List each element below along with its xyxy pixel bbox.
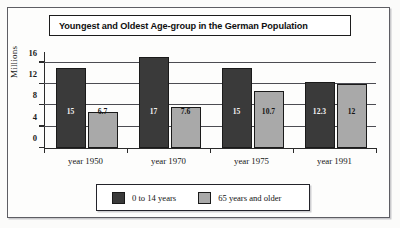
y-tick-label: 16	[28, 48, 37, 58]
bar-old: 6.7	[88, 112, 118, 148]
x-tick-mark	[127, 148, 128, 153]
bar-value-label: 15	[67, 107, 75, 116]
y-tick-label: 12	[28, 69, 37, 79]
bar-old: 12	[337, 84, 367, 148]
bar-value-label: 12.3	[313, 107, 326, 116]
chart-legend: 0 to 14 years65 years and older	[96, 184, 310, 211]
x-tick-mark	[44, 148, 45, 153]
bar-young: 15	[222, 68, 252, 148]
bar-old: 7.6	[171, 107, 201, 148]
legend-swatch	[112, 192, 125, 204]
bar-value-label: 7.6	[181, 107, 191, 116]
plot-inner: 0481216 156.7177.61510.712.312	[44, 52, 376, 148]
x-tick-mark	[376, 148, 377, 153]
x-category-label: year 1950	[44, 156, 127, 166]
bar-group: 177.6	[139, 52, 201, 148]
legend-label: 0 to 14 years	[132, 193, 176, 203]
legend-label: 65 years and older	[218, 193, 281, 203]
y-tick-label: 0	[33, 133, 37, 143]
y-tick-label: 4	[33, 112, 37, 122]
legend-item: 0 to 14 years	[112, 192, 176, 204]
chart-page: Youngest and Oldest Age-group in the Ger…	[0, 0, 400, 228]
bar-young: 15	[56, 68, 86, 148]
x-tick-mark	[293, 148, 294, 153]
y-tick-mark	[39, 104, 44, 105]
bar-group: 12.312	[305, 52, 367, 148]
y-tick-mark	[39, 125, 44, 126]
bar-young: 12.3	[305, 82, 335, 148]
bar-young: 17	[139, 57, 169, 148]
y-tick-mark	[39, 61, 44, 62]
bar-value-label: 15	[233, 107, 241, 116]
y-tick-label: 8	[33, 90, 37, 100]
x-category-label: year 1991	[293, 156, 376, 166]
bar-value-label: 17	[150, 107, 158, 116]
bar-group: 156.7	[56, 52, 118, 148]
legend-swatch	[198, 192, 211, 204]
x-tick-mark	[210, 148, 211, 153]
bar-value-label: 10.7	[262, 107, 275, 116]
y-tick-mark	[39, 83, 44, 84]
bar-value-label: 12	[348, 107, 356, 116]
bar-value-label: 6.7	[98, 107, 108, 116]
bar-old: 10.7	[254, 91, 284, 148]
legend-item: 65 years and older	[198, 192, 281, 204]
bar-group: 1510.7	[222, 52, 284, 148]
x-category-label: year 1975	[210, 156, 293, 166]
x-category-label: year 1970	[127, 156, 210, 166]
